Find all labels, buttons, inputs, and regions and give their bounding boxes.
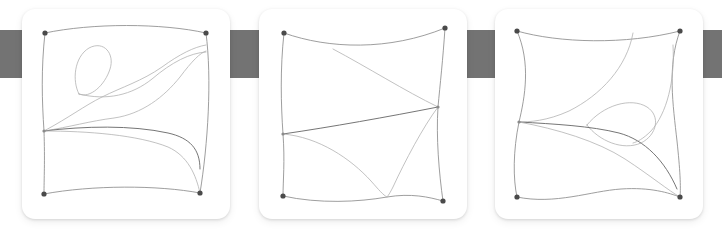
boundary-top [284,28,445,45]
boundary-top [45,26,206,34]
vertex-top-right [442,25,447,30]
vertex-top-right [677,28,682,33]
curve-main-diagonal [519,33,633,122]
vertex-top-right [203,30,208,35]
curve-diagonal-top [333,49,438,107]
vertex-bottom-right [677,194,682,199]
curve-panel-3[interactable] [495,9,703,219]
vertex-bottom-left [280,193,285,198]
junction-left-mid [281,132,284,135]
boundary-top [517,31,680,41]
curve-lower-arc-2 [44,131,200,193]
boundary-bottom [517,189,680,200]
curve-lower-sweep [519,122,680,197]
curve-drawing-1 [22,9,230,219]
curve-panel-1[interactable] [22,9,230,219]
vertex-top-left [514,28,519,33]
curve-panel-2[interactable] [259,9,467,219]
boundary-left [42,33,45,194]
curve-middle-wave [44,51,206,131]
loop-teardrop [75,46,111,95]
junction-left-mid [42,129,45,132]
curve-mid-horizontal [283,107,438,134]
diagram-canvas [0,0,722,232]
junction-left-mid [517,120,520,123]
boundary-right [437,28,445,201]
curve-diagonal-upper [44,45,206,131]
curve-upper-sweep [79,52,206,97]
curve-lower-arc [44,127,200,169]
loop-lens [587,103,656,146]
vertex-bottom-right [440,198,445,203]
boundary-left [281,33,284,196]
boundary-bottom [283,195,443,201]
curve-drawing-2 [259,9,467,219]
curve-lower-right-sweep [387,107,438,197]
vertex-bottom-right [197,190,202,195]
vertex-top-left [42,30,47,35]
vertex-bottom-left [41,191,46,196]
boundary-left [514,31,525,197]
curve-drawing-3 [495,9,703,219]
boundary-right [200,33,209,193]
curve-lower-left-sweep [283,134,387,197]
boundary-bottom [44,187,200,194]
curve-right-interior [633,45,673,143]
junction-right-mid [436,105,439,108]
vertex-bottom-left [514,194,519,199]
vertex-top-left [281,30,286,35]
